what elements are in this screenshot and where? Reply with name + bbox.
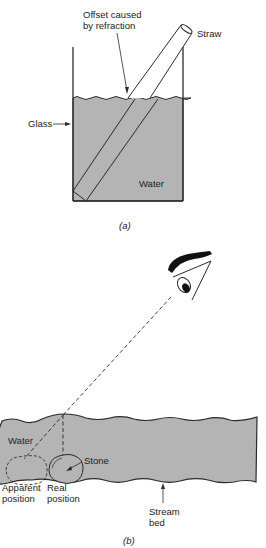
figure-a: Offset caused by refraction Straw Glass … <box>28 9 221 231</box>
label-apparent-2: position <box>2 493 35 504</box>
label-stream: Stream <box>149 506 180 517</box>
offset-arrow <box>117 33 127 91</box>
label-real-2: position <box>47 493 80 504</box>
stream-water <box>0 414 257 484</box>
figure-b: Water Stone Apparent position Real posit… <box>0 251 257 546</box>
label-real: Real <box>47 482 67 493</box>
real-stone <box>49 455 83 484</box>
label-stone: Stone <box>84 455 109 466</box>
refraction-diagram: Offset caused by refraction Straw Glass … <box>0 0 266 548</box>
label-water-a: Water <box>139 178 164 189</box>
streambed-arrowhead <box>161 483 165 489</box>
label-stream-2: bed <box>149 517 165 528</box>
offset-arrowhead <box>125 87 129 94</box>
label-glass: Glass <box>28 118 53 129</box>
caption-a: (a) <box>119 220 131 231</box>
label-apparent: Apparent <box>2 482 41 493</box>
sight-line <box>64 297 171 414</box>
label-offset: Offset caused <box>83 9 141 20</box>
label-offset-2: by refraction <box>83 20 135 31</box>
label-water-b: Water <box>8 435 33 446</box>
caption-b: (b) <box>123 535 135 546</box>
glass-arrowhead <box>65 122 71 126</box>
label-straw: Straw <box>197 28 221 39</box>
glass-water <box>73 97 191 202</box>
